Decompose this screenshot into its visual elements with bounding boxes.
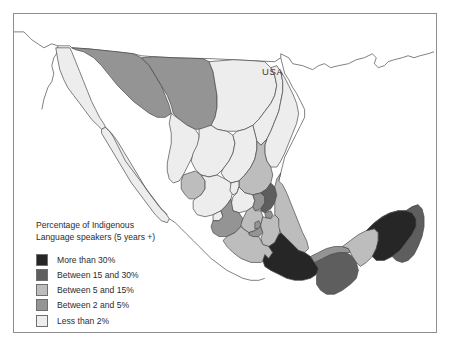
legend-swatch-more-than-30 <box>36 254 48 266</box>
usa-country-label: USA <box>262 66 283 77</box>
legend-label-between-15-and-30: Between 15 and 30% <box>57 270 139 280</box>
legend-swatch-between-15-and-30 <box>36 269 48 281</box>
map-figure: .b{stroke:#4a4a4a;stroke-width:0.7;strok… <box>0 0 452 347</box>
legend-item-between-2-and-5: Between 2 and 5% <box>36 298 201 313</box>
legend-label-between-5-and-15: Between 5 and 15% <box>57 285 134 295</box>
legend-item-less-than-2: Less than 2% <box>36 313 201 328</box>
baja-gulf-coastline <box>106 127 168 214</box>
legend-item-between-15-and-30: Between 15 and 30% <box>36 267 201 282</box>
legend-swatch-less-than-2 <box>36 315 48 327</box>
map-legend: Percentage of Indigenous Language speake… <box>36 220 201 328</box>
legend-label-between-2-and-5: Between 2 and 5% <box>57 300 129 310</box>
legend-swatch-between-5-and-15 <box>36 284 48 296</box>
legend-label-less-than-2: Less than 2% <box>57 316 109 326</box>
legend-item-between-5-and-15: Between 5 and 15% <box>36 283 201 298</box>
legend-label-more-than-30: More than 30% <box>57 255 115 265</box>
map-frame: .b{stroke:#4a4a4a;stroke-width:0.7;strok… <box>13 13 437 333</box>
legend-title: Percentage of Indigenous Language speake… <box>36 220 201 243</box>
legend-item-more-than-30: More than 30% <box>36 252 201 267</box>
legend-swatch-between-2-and-5 <box>36 299 48 311</box>
state-baja-california-sur <box>102 127 170 222</box>
